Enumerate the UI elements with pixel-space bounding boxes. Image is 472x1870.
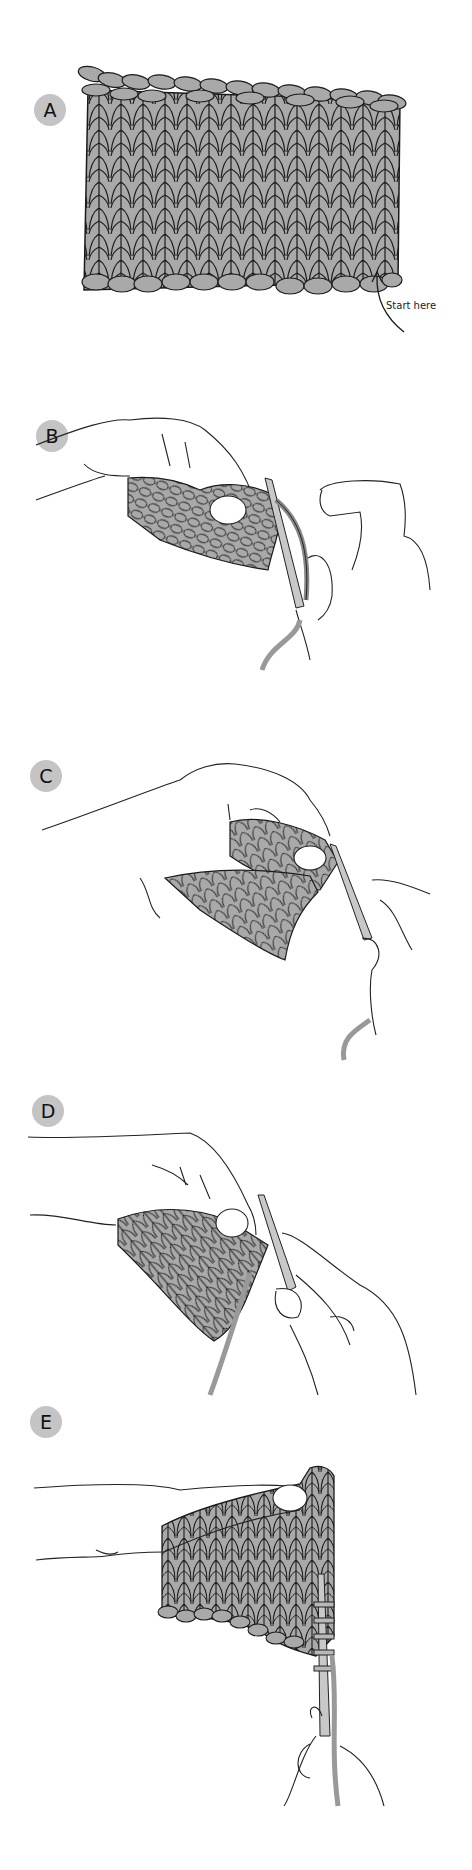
- finished-piece-illustration-e: [0, 1406, 472, 1870]
- step-e-panel: E: [0, 1406, 472, 1870]
- step-d-panel: D: [0, 1095, 472, 1395]
- hands-knitting-illustration-d: [0, 1095, 472, 1395]
- knitted-swatch-illustration: [0, 0, 472, 340]
- start-here-label: Start here: [386, 300, 436, 311]
- step-a-panel: A: [0, 0, 472, 340]
- hands-knitting-illustration-c: [0, 760, 472, 1060]
- hands-knitting-illustration-b: [0, 420, 472, 680]
- step-b-panel: B: [0, 420, 472, 680]
- step-c-panel: C: [0, 760, 472, 1060]
